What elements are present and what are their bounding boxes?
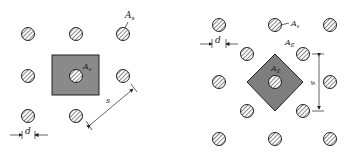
diameter-label: d	[215, 35, 221, 45]
bar	[22, 70, 35, 83]
bar	[213, 76, 226, 89]
right-panel-staggered-arrangement: As AE AE d s	[200, 19, 337, 146]
effective-area-label: AE	[284, 38, 295, 48]
diameter-label: d	[25, 126, 31, 136]
bar-area-label: As	[290, 19, 300, 29]
bar	[213, 19, 226, 32]
bar-center	[70, 70, 83, 83]
reinforcement-layout-diagram: As Ae s d	[0, 0, 349, 160]
bar	[241, 48, 254, 61]
bar	[70, 110, 83, 123]
bar	[117, 70, 130, 83]
bar	[70, 28, 83, 41]
left-bars	[22, 28, 130, 123]
bar	[297, 48, 310, 61]
spacing-label: s	[309, 81, 318, 85]
bar-area-leader	[281, 23, 289, 25]
bar	[241, 105, 254, 118]
bar	[269, 19, 282, 32]
bar	[22, 28, 35, 41]
spacing-label: s	[106, 96, 110, 105]
bar	[213, 133, 226, 146]
bar	[324, 133, 337, 146]
bar	[269, 133, 282, 146]
bar-area-leader	[125, 22, 128, 28]
left-panel-square-arrangement: As Ae s d	[10, 10, 137, 139]
bar	[324, 19, 337, 32]
bar	[22, 110, 35, 123]
bar	[324, 76, 337, 89]
bar	[297, 105, 310, 118]
bar-area-label: As	[124, 10, 135, 21]
bar-center	[269, 76, 282, 89]
bar	[117, 28, 130, 41]
